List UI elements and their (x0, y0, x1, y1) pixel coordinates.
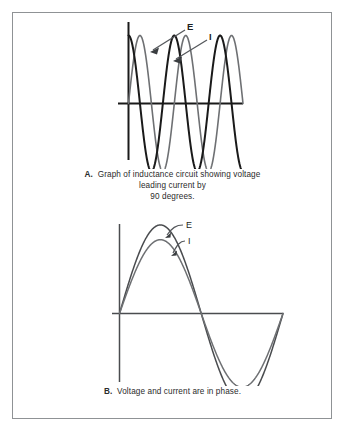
panel-a-caption-text-1: Graph of inductance circuit showing volt… (98, 170, 261, 179)
panel-b-label-current: I (188, 236, 191, 246)
panel-b-label-voltage: E (186, 220, 192, 230)
panel-b: E I B. Voltage and current are in phase. (0, 214, 345, 414)
panel-b-plot: E I (0, 214, 345, 386)
panel-a-caption-line-3: 90 degrees. (0, 191, 345, 202)
panel-a-caption-lead: A. (85, 170, 98, 179)
panel-a-label-voltage: E (187, 21, 193, 32)
panel-a-label-current: I (209, 31, 212, 42)
panel-b-caption-line-1: B. Voltage and current are in phase. (0, 386, 345, 397)
panel-a-plot: E I (0, 14, 345, 169)
panel-b-caption-text-1: Voltage and current are in phase. (117, 387, 241, 396)
panel-a-caption: A. Graph of inductance circuit showing v… (0, 169, 345, 202)
panel-b-caption-lead: B. (104, 387, 117, 396)
panel-a-caption-line-2: leading current by (0, 180, 345, 191)
figure-page: E I A. Graph of inductance circuit showi… (0, 0, 345, 432)
panel-b-voltage-wave (120, 225, 284, 386)
panel-b-caption: B. Voltage and current are in phase. (0, 386, 345, 397)
panel-a-caption-line-1: A. Graph of inductance circuit showing v… (0, 169, 345, 180)
panel-a: E I A. Graph of inductance circuit showi… (0, 14, 345, 214)
